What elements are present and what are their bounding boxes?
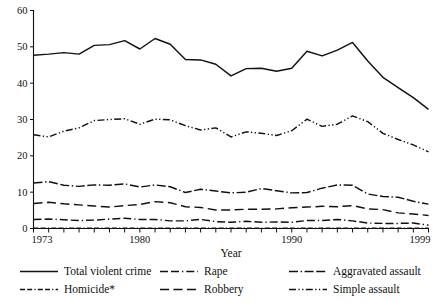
legend-label-aggravated-assault: Aggravated assault <box>333 265 422 278</box>
legend-label-homicide: Homicide* <box>64 283 115 295</box>
data-series <box>34 38 429 228</box>
line-chart: 0102030405060 1973198019901999 Year Tota… <box>0 0 443 308</box>
y-tick-label: 20 <box>17 150 28 161</box>
axes <box>30 11 429 233</box>
x-tick-label: 1980 <box>129 234 150 245</box>
series-line-robbery <box>34 202 429 216</box>
x-tick-label: 1990 <box>281 234 302 245</box>
series-line-rape <box>34 218 429 225</box>
y-tick-label: 50 <box>17 41 28 52</box>
x-axis-tick-labels: 1973198019901999 <box>32 234 431 245</box>
y-tick-label: 0 <box>22 223 27 234</box>
chart-figure: 0102030405060 1973198019901999 Year Tota… <box>0 0 443 308</box>
y-tick-label: 40 <box>17 78 28 89</box>
y-axis-tick-labels: 0102030405060 <box>17 5 28 234</box>
legend-label-robbery: Robbery <box>204 283 244 296</box>
x-axis-title: Year <box>220 247 241 259</box>
y-tick-label: 10 <box>17 187 28 198</box>
series-line-total-violent-crime <box>34 38 429 109</box>
series-line-simple-assault <box>34 116 429 152</box>
plot-area: 0102030405060 1973198019901999 <box>17 5 431 245</box>
x-tick-label: 1999 <box>410 234 431 245</box>
legend-label-rape: Rape <box>204 265 228 278</box>
chart-legend: Total violent crimeHomicide*RapeRobberyA… <box>20 265 422 296</box>
legend-label-simple-assault: Simple assault <box>333 283 401 296</box>
legend-label-total-violent-crime: Total violent crime <box>64 265 151 277</box>
y-tick-label: 30 <box>17 114 28 125</box>
y-tick-label: 60 <box>17 5 28 16</box>
axis-lines <box>34 11 429 229</box>
x-tick-label: 1973 <box>32 234 53 245</box>
series-line-aggravated-assault <box>34 182 429 205</box>
